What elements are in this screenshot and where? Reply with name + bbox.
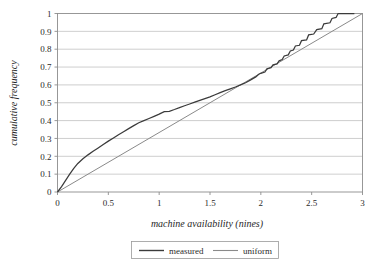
x-tick-label: 3 — [360, 198, 365, 208]
chart-figure: 00.10.20.30.40.50.60.70.80.91 00.511.522… — [0, 0, 384, 268]
y-tick-label: 0 — [47, 187, 52, 197]
y-tick-label: 0.6 — [40, 80, 52, 90]
y-tick-label: 0.5 — [40, 98, 52, 108]
y-tick-label: 0.2 — [40, 152, 51, 162]
x-tick-label: 2 — [259, 198, 264, 208]
y-tick-label: 0.4 — [40, 116, 52, 126]
y-tick-label: 1 — [47, 9, 52, 19]
chart-legend: measured uniform — [132, 242, 279, 259]
x-tick-label: 0 — [55, 198, 60, 208]
x-tick-label: 1 — [157, 198, 162, 208]
x-tick-label: 2.5 — [306, 198, 318, 208]
legend-label-measured: measured — [169, 246, 204, 256]
y-tick-label: 0.8 — [40, 44, 52, 54]
y-tick-label: 0.1 — [40, 169, 51, 179]
x-tick-label: 1.5 — [204, 198, 216, 208]
y-tick-label: 0.9 — [40, 27, 52, 37]
cdf-chart: 00.10.20.30.40.50.60.70.80.91 00.511.522… — [0, 0, 384, 268]
y-tick-label: 0.3 — [40, 134, 52, 144]
y-tick-label: 0.7 — [40, 62, 52, 72]
y-axis-title: cumulative frequency — [8, 60, 19, 146]
x-tick-label: 0.5 — [103, 198, 115, 208]
legend-label-uniform: uniform — [243, 246, 272, 256]
x-axis-title: machine availability (nines) — [151, 218, 264, 230]
